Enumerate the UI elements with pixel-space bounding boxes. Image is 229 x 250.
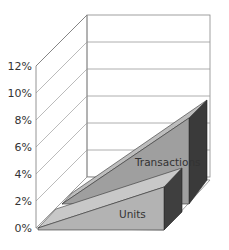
y-tick-label: 4% — [15, 168, 32, 181]
y-tick-label: 10% — [8, 87, 32, 100]
y-tick-label: 12% — [8, 60, 32, 73]
units-label: Units — [119, 208, 146, 220]
y-tick-label: 6% — [15, 141, 32, 154]
3d-area-chart: Transactions Units 12% 10% 8% 6% 4% 2% 0… — [0, 0, 229, 250]
y-tick-label: 0% — [15, 222, 32, 235]
y-axis: 12% 10% 8% 6% 4% 2% 0% — [8, 60, 32, 235]
y-tick-label: 2% — [15, 195, 32, 208]
transactions-label: Transactions — [134, 156, 201, 168]
y-tick-label: 8% — [15, 114, 32, 127]
